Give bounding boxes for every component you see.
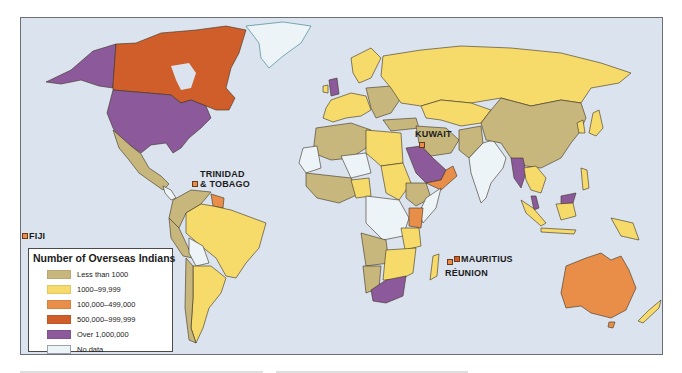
legend-swatch bbox=[47, 315, 71, 324]
legend-swatch bbox=[47, 345, 71, 354]
marker-trinidad-tobago bbox=[192, 181, 198, 187]
legend-label: 100,000–499,000 bbox=[77, 300, 135, 309]
legend-item-no-data: No data bbox=[33, 342, 168, 355]
legend-title: Number of Overseas Indians bbox=[33, 252, 168, 264]
legend-swatch bbox=[47, 270, 71, 279]
legend-item-less-than-1000: Less than 1000 bbox=[33, 267, 168, 282]
marker-kuwait bbox=[419, 142, 425, 148]
legend-label: Over 1,000,000 bbox=[77, 330, 129, 339]
legend-item-over-1000000: Over 1,000,000 bbox=[33, 327, 168, 342]
label-kuwait: KUWAIT bbox=[415, 129, 452, 139]
legend-swatch bbox=[47, 330, 71, 339]
legend-item-500000-999999: 500,000–999,999 bbox=[33, 312, 168, 327]
label-trinidad: TRINIDAD bbox=[200, 169, 245, 179]
marker-mauritius bbox=[454, 256, 460, 262]
legend-swatch bbox=[47, 285, 71, 294]
region-united-kingdom[interactable] bbox=[329, 78, 339, 96]
legend-swatch bbox=[47, 300, 71, 309]
legend: Number of Overseas Indians Less than 100… bbox=[28, 248, 173, 352]
world-map-frame: FIJI TRINIDAD & TOBAGO KUWAIT MAURITIUS … bbox=[20, 17, 663, 355]
label-mauritius: MAURITIUS bbox=[461, 254, 513, 264]
legend-label: 1000–99,999 bbox=[77, 285, 121, 294]
label-fiji: FIJI bbox=[29, 231, 45, 241]
legend-label: Less than 1000 bbox=[77, 270, 128, 279]
marker-reunion bbox=[447, 259, 453, 265]
legend-label: No data bbox=[77, 345, 103, 354]
figure-caption-cutoff bbox=[20, 366, 660, 373]
marker-fiji bbox=[22, 233, 28, 239]
label-reunion: RÉUNION bbox=[445, 268, 488, 278]
legend-item-1000-99999: 1000–99,999 bbox=[33, 282, 168, 297]
region-kenya[interactable] bbox=[409, 208, 423, 228]
legend-label: 500,000–999,999 bbox=[77, 315, 135, 324]
legend-item-100000-499000: 100,000–499,000 bbox=[33, 297, 168, 312]
region-ireland[interactable] bbox=[323, 85, 328, 93]
label-tobago: & TOBAGO bbox=[200, 179, 250, 189]
